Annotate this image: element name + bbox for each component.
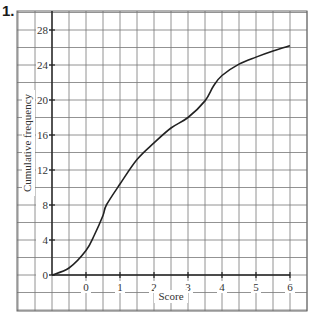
- y-tick-label: 0: [43, 269, 49, 281]
- y-tick-label: 4: [43, 234, 49, 246]
- y-tick-label: 16: [37, 129, 49, 141]
- x-axis-label: Score: [158, 290, 183, 302]
- y-tick-label: 8: [43, 199, 49, 211]
- y-tick-label: 24: [37, 59, 49, 71]
- grid: [17, 11, 307, 311]
- y-axis-label: Cumulative frequency: [21, 93, 33, 192]
- y-tick-label: 12: [37, 164, 48, 176]
- x-tick-label: 4: [219, 281, 225, 293]
- y-tick-label: 28: [37, 24, 49, 36]
- y-tick-label: 20: [37, 94, 49, 106]
- cumulative-frequency-chart: 0481216202428 0123456 Score Cumulative f…: [0, 0, 314, 319]
- x-tick-label: 6: [287, 281, 293, 293]
- x-tick-label: 0: [83, 281, 89, 293]
- x-tick-label: 5: [253, 281, 259, 293]
- x-tick-label: 1: [117, 281, 123, 293]
